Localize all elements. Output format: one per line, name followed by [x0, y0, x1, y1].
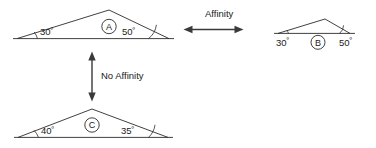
triangle-b-right-side	[325, 19, 350, 33]
no-affinity-arrow-head-up-icon	[88, 52, 95, 61]
triangle-b-letter: B	[315, 38, 321, 48]
triangle-a-left-side	[17, 10, 109, 39]
triangle-c-left-angle-arc	[34, 130, 39, 137]
triangle-a-letter: A	[106, 22, 112, 32]
triangle-c-left-side	[18, 109, 92, 137]
triangle-b-group: 30º 50º B	[274, 19, 355, 49]
triangle-c-left-angle-label: 40º	[41, 125, 55, 136]
no-affinity-arrow-head-down-icon	[88, 93, 95, 102]
affinity-arrow-head-right-icon	[235, 26, 244, 34]
no-affinity-relation-group: No Affinity	[88, 52, 144, 102]
triangle-a-right-side	[109, 10, 169, 39]
triangle-a-left-angle-label: 30º	[40, 26, 54, 37]
triangle-c-letter: C	[89, 120, 96, 130]
affinity-relation-group: Affinity	[184, 8, 244, 33]
triangle-b-left-side	[278, 19, 325, 33]
triangle-c-right-angle-label: 35º	[121, 125, 135, 136]
no-affinity-label: No Affinity	[101, 70, 144, 81]
triangle-a-right-angle-label: 50º	[122, 26, 136, 37]
triangle-a-group: 30º 50º A	[13, 10, 174, 39]
triangle-b-right-angle-label: 50º	[339, 36, 353, 47]
affinity-label: Affinity	[205, 8, 234, 19]
triangle-c-group: 40º 35º C	[14, 109, 173, 137]
affinity-diagram: 30º 50º A Affinity 30º 50º B	[0, 0, 376, 148]
triangle-b-right-angle-arc	[340, 25, 344, 33]
triangle-b-left-angle-label: 30º	[276, 36, 290, 47]
affinity-arrow-head-left-icon	[184, 26, 193, 34]
diagram-canvas: 30º 50º A Affinity 30º 50º B	[0, 0, 376, 148]
